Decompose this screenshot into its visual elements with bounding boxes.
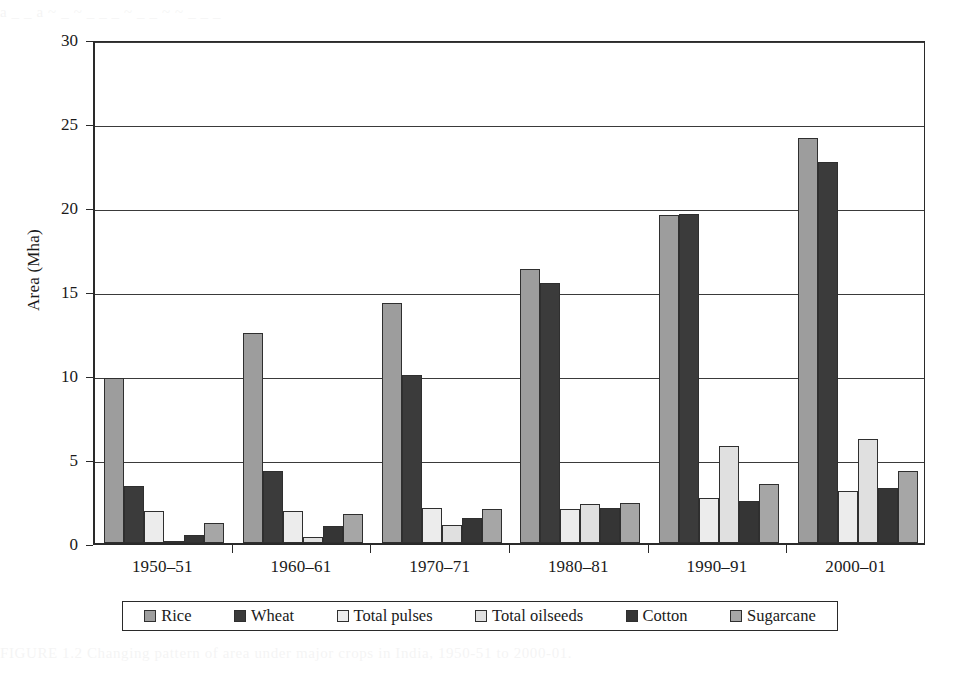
bar [540, 283, 560, 543]
legend-item[interactable]: Total pulses [335, 606, 435, 626]
bar [204, 523, 224, 543]
legend-item[interactable]: Wheat [232, 606, 296, 626]
gridline [95, 126, 924, 127]
legend-label: Sugarcane [747, 606, 816, 626]
legend-label: Cotton [643, 606, 688, 626]
bar [679, 214, 699, 543]
legend-swatch-icon [626, 610, 638, 622]
bar [580, 504, 600, 543]
bar [878, 488, 898, 543]
bar [164, 541, 184, 543]
bar [620, 503, 640, 543]
y-axis-tick-label: 20 [34, 200, 78, 217]
y-axis-tick-label: 30 [34, 32, 78, 49]
bar [560, 509, 580, 543]
legend-label: Wheat [251, 606, 294, 626]
y-axis-tick [86, 545, 93, 546]
y-axis-tick-label: 5 [34, 452, 78, 469]
legend-label: Total pulses [354, 606, 433, 626]
legend-item[interactable]: Rice [142, 606, 193, 626]
bar [144, 511, 164, 543]
y-axis-tick [86, 293, 93, 294]
x-axis-tick [370, 545, 371, 553]
y-axis-tick [86, 209, 93, 210]
bar [699, 498, 719, 543]
y-axis-tick [86, 41, 93, 42]
bar [263, 471, 283, 543]
scan-bleed-bottom: FIGURE 1.2 Changing pattern of area unde… [0, 645, 958, 671]
bar [659, 215, 679, 543]
y-axis-tick-label: 15 [34, 284, 78, 301]
x-axis-tick-label: 1960–61 [231, 557, 371, 577]
bar [838, 491, 858, 543]
legend-swatch-icon [475, 610, 487, 622]
x-axis-tick-label: 1990–91 [647, 557, 787, 577]
y-axis-tick [86, 461, 93, 462]
x-axis-tick-label: 1950–51 [92, 557, 232, 577]
bar [520, 269, 540, 543]
x-axis-tick [509, 545, 510, 553]
y-axis-tick-label: 0 [34, 536, 78, 553]
x-axis-tick [648, 545, 649, 553]
bar [104, 378, 124, 543]
bar [283, 511, 303, 543]
legend-item[interactable]: Total oilseeds [473, 606, 585, 626]
x-axis-tick-label: 2000–01 [786, 557, 926, 577]
bar [422, 508, 442, 543]
bar [739, 501, 759, 543]
bar [600, 508, 620, 543]
bar [858, 439, 878, 543]
bar [184, 535, 204, 543]
legend-label: Total oilseeds [492, 606, 583, 626]
bar [462, 518, 482, 543]
bar [382, 303, 402, 543]
scan-bleed-top: a _ _ a ~ _ ~ _ _ _ ~ _ _ ~ ~ _ _ _ [0, 4, 958, 30]
bar [303, 537, 323, 543]
legend-swatch-icon [337, 610, 349, 622]
y-axis-tick-label: 25 [34, 116, 78, 133]
bar [719, 446, 739, 543]
y-axis-tick [86, 125, 93, 126]
bar [818, 162, 838, 543]
plot-area [93, 41, 925, 545]
bar [323, 526, 343, 543]
y-axis-tick [86, 377, 93, 378]
bar [798, 138, 818, 543]
bar [898, 471, 918, 543]
y-axis-tick-label: 10 [34, 368, 78, 385]
bar [124, 486, 144, 543]
legend-item[interactable]: Sugarcane [728, 606, 818, 626]
bar [759, 484, 779, 543]
legend-label: Rice [161, 606, 191, 626]
bar [442, 525, 462, 543]
bar [243, 333, 263, 543]
bar [343, 514, 363, 543]
legend-swatch-icon [730, 610, 742, 622]
x-axis-tick [786, 545, 787, 553]
legend-item[interactable]: Cotton [624, 606, 690, 626]
legend-swatch-icon [144, 610, 156, 622]
bar [482, 509, 502, 543]
chart-legend: RiceWheatTotal pulsesTotal oilseedsCotto… [122, 601, 838, 631]
figure-container: a _ _ a ~ _ ~ _ _ _ ~ _ _ ~ ~ _ _ _ Area… [0, 0, 958, 673]
x-axis-tick-label: 1980–81 [508, 557, 648, 577]
legend-swatch-icon [234, 610, 246, 622]
x-axis-tick-label: 1970–71 [370, 557, 510, 577]
x-axis-tick [232, 545, 233, 553]
gridline [95, 42, 924, 43]
bar [402, 375, 422, 543]
